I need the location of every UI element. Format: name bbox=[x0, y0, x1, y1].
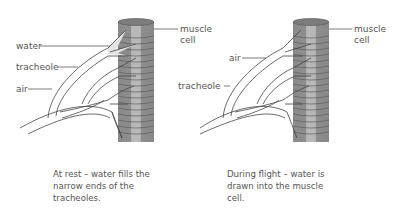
label-water: water bbox=[16, 41, 42, 51]
label-muscle-cell-line1: muscle bbox=[354, 24, 386, 34]
panel-during-flight: air tracheole muscle cell During flight … bbox=[200, 0, 400, 220]
label-air: air bbox=[16, 84, 28, 94]
label-air: air bbox=[229, 53, 241, 63]
panel-at-rest: water tracheole air muscle cell At rest … bbox=[0, 0, 200, 220]
tracheole-diagram-during-flight bbox=[200, 0, 400, 150]
caption-at-rest: At rest – water fills the narrow ends of… bbox=[53, 168, 188, 204]
label-tracheole: tracheole bbox=[178, 81, 220, 91]
muscle-cell bbox=[118, 19, 154, 143]
muscle-cell bbox=[293, 19, 329, 143]
caption-during-flight: During flight – water is drawn into the … bbox=[227, 168, 362, 204]
label-muscle-cell-line2: cell bbox=[354, 35, 370, 45]
label-muscle-cell-line2: cell bbox=[180, 35, 196, 45]
tracheole-diagram-at-rest bbox=[0, 0, 200, 150]
label-tracheole: tracheole bbox=[16, 62, 58, 72]
